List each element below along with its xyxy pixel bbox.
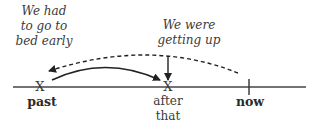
after-that-label: after that <box>146 94 190 124</box>
past-event-note: We had to go to bed early <box>8 4 80 49</box>
sequence-arrow <box>52 68 160 81</box>
timeline-diagram: X X We had to go to bed early We were ge… <box>0 0 315 126</box>
after-x-marker: X <box>162 79 174 94</box>
now-label: now <box>230 94 270 109</box>
past-label: past <box>22 94 62 109</box>
past-x-marker: X <box>34 79 46 94</box>
progressive-note: We were getting up <box>152 18 226 48</box>
